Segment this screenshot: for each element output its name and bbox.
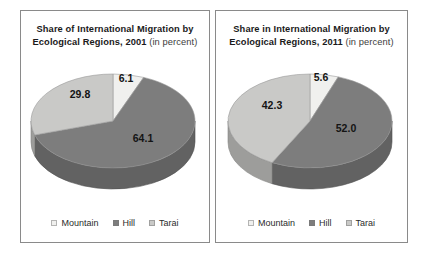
pie-svg-2001: 6.1 64.1 29.8 [25,63,205,213]
pie-chart-2001: 6.1 64.1 29.8 [21,63,209,213]
legend-item-tarai-2011[interactable]: Tarai [346,218,376,228]
chart-title-suffix-2011: (in percent) [343,37,394,47]
legend-2001: Mountain Hill Tarai [21,218,209,228]
pie-label-mountain-2001: 6.1 [119,72,134,84]
chart-panel-2001: Share of International Migration by Ecol… [20,10,210,243]
legend-swatch-tarai-icon [149,220,155,226]
chart-title-2011: Share in International Migration by Ecol… [222,23,401,48]
legend-item-tarai-2001[interactable]: Tarai [149,218,179,228]
pie-label-tarai-2011: 42.3 [261,99,282,111]
legend-2011: Mountain Hill Tarai [216,218,407,228]
figure-container: Share of International Migration by Ecol… [20,10,408,243]
legend-swatch-hill-icon [113,220,119,226]
chart-title-suffix-2001: (in percent) [147,37,198,47]
legend-label-mountain: Mountain [61,218,98,228]
legend-swatch-hill-icon [309,220,315,226]
legend-label-tarai: Tarai [356,218,376,228]
pie-chart-2011: 5.6 52.0 42.3 [216,63,407,213]
pie-label-hill-2011: 52.0 [335,122,356,134]
pie-svg-2011: 5.6 52.0 42.3 [222,63,402,213]
pie-label-mountain-2011: 5.6 [313,71,328,83]
pie-label-hill-2001: 64.1 [133,132,154,144]
pie-label-tarai-2001: 29.8 [70,88,91,100]
legend-item-mountain-2001[interactable]: Mountain [51,218,98,228]
chart-panel-2011: Share in International Migration by Ecol… [215,10,408,243]
chart-title-2001: Share of International Migration by Ecol… [27,23,203,48]
legend-swatch-tarai-icon [346,220,352,226]
legend-item-hill-2001[interactable]: Hill [113,218,136,228]
legend-item-mountain-2011[interactable]: Mountain [248,218,295,228]
legend-label-hill: Hill [319,218,332,228]
legend-label-hill: Hill [123,218,136,228]
legend-label-tarai: Tarai [159,218,179,228]
legend-swatch-mountain-icon [248,220,254,226]
legend-swatch-mountain-icon [51,220,57,226]
legend-label-mountain: Mountain [258,218,295,228]
legend-item-hill-2011[interactable]: Hill [309,218,332,228]
